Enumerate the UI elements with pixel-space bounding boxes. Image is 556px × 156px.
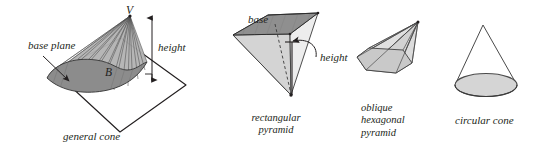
label-apex-v: V xyxy=(126,4,133,16)
hex-apex-point xyxy=(417,21,420,24)
hex-base-polygon xyxy=(357,48,412,73)
rectangular-pyramid-panel xyxy=(228,8,319,97)
label-height-general-cone: height xyxy=(158,42,186,54)
caption-rectangular-pyramid: rectangular pyramid xyxy=(228,112,324,137)
caption-general-cone: general cone xyxy=(63,131,120,143)
pyramid-base-corner-point xyxy=(289,33,292,36)
label-base-region-b: B xyxy=(105,66,112,78)
label-base-plane: base plane xyxy=(28,40,75,52)
caption-line-2: hexagonal xyxy=(361,114,405,126)
oblique-hexagonal-pyramid-panel xyxy=(357,21,420,74)
general-cone-panel xyxy=(40,14,186,132)
caption-line-1: rectangular xyxy=(228,112,324,124)
label-base-rectangular-pyramid: base xyxy=(248,14,268,26)
pyramid-front-face xyxy=(233,34,291,95)
caption-line-1: oblique xyxy=(361,102,405,114)
circular-cone-panel xyxy=(455,25,517,97)
right-angle-mark xyxy=(145,74,152,81)
pyramid-base-corner-point xyxy=(317,12,320,15)
caption-line-2: pyramid xyxy=(228,124,324,136)
caption-line-3: pyramid xyxy=(361,127,405,139)
pyramid-apex-point xyxy=(289,93,292,96)
caption-oblique-hexagonal-pyramid: oblique hexagonal pyramid xyxy=(361,102,405,139)
label-height-rectangular-pyramid: height xyxy=(320,52,348,64)
caption-circular-cone: circular cone xyxy=(455,115,514,127)
